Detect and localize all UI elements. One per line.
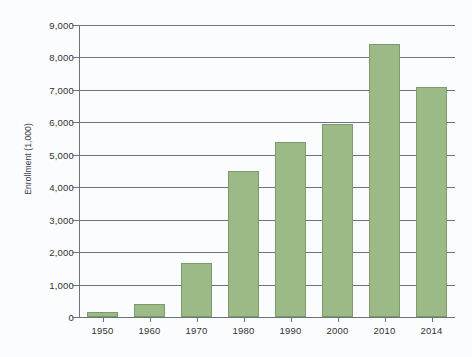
x-axis-baseline <box>79 317 455 318</box>
y-axis-tick-mark <box>72 25 79 26</box>
bar-1970[interactable] <box>181 263 212 317</box>
x-axis-tick-mark <box>432 318 433 322</box>
y-axis-tick-mark <box>72 252 79 253</box>
x-axis-tick-mark <box>103 318 104 322</box>
x-axis-tick-label-1990: 1990 <box>280 325 302 336</box>
y-axis-tick-label: 0 <box>34 312 74 323</box>
bar-1980[interactable] <box>228 171 259 317</box>
x-axis-tick-label-1970: 1970 <box>186 325 208 336</box>
y-axis-tick-mark <box>72 122 79 123</box>
y-axis-tick-label: 1,000 <box>34 279 74 290</box>
y-axis-tick-label: 2,000 <box>34 247 74 258</box>
x-axis-tick-mark <box>150 318 151 322</box>
x-axis-tick-mark <box>244 318 245 322</box>
y-axis-tick-label-group: 01,0002,0003,0004,0005,0006,0007,0008,00… <box>30 0 74 357</box>
y-axis-tick-mark <box>72 155 79 156</box>
x-axis-tick-label-1980: 1980 <box>233 325 255 336</box>
y-axis-tick-mark <box>72 317 79 318</box>
bar-1960[interactable] <box>134 304 165 317</box>
x-axis-tick-mark <box>338 318 339 322</box>
x-axis-tick-label-2010: 2010 <box>374 325 396 336</box>
bar-2014[interactable] <box>416 87 447 317</box>
y-axis-tick-label: 4,000 <box>34 182 74 193</box>
x-axis-tick-label-1950: 1950 <box>92 325 114 336</box>
bars-layer <box>79 25 455 317</box>
x-axis-tick-mark <box>291 318 292 322</box>
y-axis-tick-label: 7,000 <box>34 84 74 95</box>
bar-2010[interactable] <box>369 44 400 317</box>
bar-2000[interactable] <box>322 124 353 317</box>
y-axis-tick-label: 8,000 <box>34 52 74 63</box>
x-axis-tick-label-2000: 2000 <box>327 325 349 336</box>
x-axis-tick-mark <box>385 318 386 322</box>
bar-chart-figure: Enrollment (1,000) 01,0002,0003,0004,000… <box>0 0 472 357</box>
y-axis-tick-label: 6,000 <box>34 117 74 128</box>
bar-1990[interactable] <box>275 142 306 317</box>
y-axis-tick-label: 5,000 <box>34 149 74 160</box>
y-axis-tick-label: 3,000 <box>34 214 74 225</box>
bar-1950[interactable] <box>87 312 118 317</box>
y-axis-tick-mark <box>72 220 79 221</box>
x-axis-tick-label-1960: 1960 <box>139 325 161 336</box>
y-axis-tick-mark <box>72 57 79 58</box>
x-axis-tick-label-2014: 2014 <box>421 325 443 336</box>
y-axis-tick-label: 9,000 <box>34 20 74 31</box>
y-axis-tick-mark <box>72 90 79 91</box>
y-axis-tick-mark <box>72 285 79 286</box>
x-axis-tick-mark <box>197 318 198 322</box>
y-axis-tick-mark <box>72 187 79 188</box>
